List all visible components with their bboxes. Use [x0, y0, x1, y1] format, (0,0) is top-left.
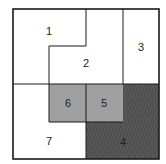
region-1-label: 1: [46, 25, 52, 37]
region-2-label: 2: [83, 57, 89, 69]
region-7-label: 7: [46, 135, 52, 147]
region-3-label: 3: [138, 41, 144, 53]
region-diagram: 1 2 3 4 5 6 7: [0, 0, 166, 164]
region-5-label: 5: [101, 97, 107, 109]
region-4-label: 4: [120, 136, 126, 148]
region-6-label: 6: [65, 97, 71, 109]
